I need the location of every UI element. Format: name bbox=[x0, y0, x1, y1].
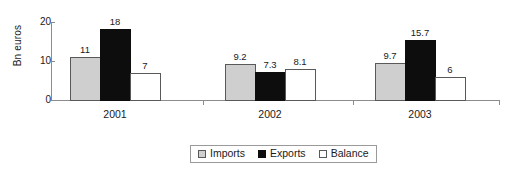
x-tick-mark-3 bbox=[499, 101, 500, 105]
bar-value-2002-balance: 8.1 bbox=[280, 57, 320, 67]
x-category-label-2003: 2003 bbox=[375, 108, 465, 120]
bar-chart: Bn euros 20 10 0 2001 2002 2003 11 18 7 … bbox=[0, 0, 517, 171]
legend-label-balance: Balance bbox=[331, 148, 369, 159]
imports-swatch-icon bbox=[198, 150, 206, 158]
exports-swatch-icon bbox=[258, 150, 266, 158]
y-tick-mark-20 bbox=[51, 22, 55, 23]
bar-2001-imports[interactable] bbox=[70, 57, 101, 101]
legend-item-exports[interactable]: Exports bbox=[258, 148, 306, 159]
bar-value-2001-imports: 11 bbox=[65, 45, 105, 55]
y-tick-0: 0 bbox=[0, 100, 51, 101]
y-tick-label-0: 0 bbox=[27, 95, 51, 105]
bar-value-2003-balance: 6 bbox=[430, 65, 470, 75]
bar-value-2003-imports: 9.7 bbox=[370, 51, 410, 61]
bar-2002-balance[interactable] bbox=[285, 69, 316, 101]
legend-label-exports: Exports bbox=[270, 148, 306, 159]
y-tick-10: 10 bbox=[0, 61, 51, 62]
x-tick-mark-2 bbox=[353, 101, 354, 105]
legend-item-balance[interactable]: Balance bbox=[319, 148, 369, 159]
bar-value-2003-exports: 15.7 bbox=[400, 28, 440, 38]
x-category-label-2001: 2001 bbox=[70, 108, 160, 120]
bar-value-2001-balance: 7 bbox=[125, 61, 165, 71]
legend-item-imports[interactable]: Imports bbox=[198, 148, 245, 159]
bar-2002-exports[interactable] bbox=[255, 72, 286, 101]
bar-2003-balance[interactable] bbox=[435, 77, 466, 101]
legend-label-imports: Imports bbox=[210, 148, 245, 159]
y-tick-20: 20 bbox=[0, 22, 51, 23]
y-tick-label-20: 20 bbox=[27, 17, 51, 27]
x-tick-mark-1 bbox=[203, 101, 204, 105]
y-tick-mark-10 bbox=[51, 61, 55, 62]
bar-2001-balance[interactable] bbox=[130, 73, 161, 101]
balance-swatch-icon bbox=[319, 150, 327, 158]
bar-value-2001-exports: 18 bbox=[95, 17, 135, 27]
x-category-label-2002: 2002 bbox=[225, 108, 315, 120]
y-axis-title: Bn euros bbox=[12, 6, 23, 86]
chart-legend: Imports Exports Balance bbox=[190, 145, 377, 163]
y-tick-label-10: 10 bbox=[27, 56, 51, 66]
bar-2003-imports[interactable] bbox=[375, 63, 406, 101]
